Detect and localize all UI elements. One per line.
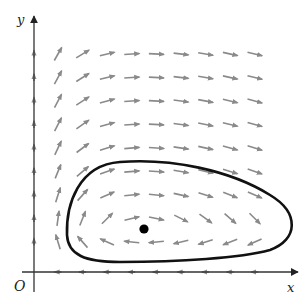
field-arrow	[174, 170, 189, 173]
field-arrow	[54, 48, 61, 61]
field-arrow	[56, 188, 61, 202]
field-arrow	[223, 52, 238, 55]
phase-plane-figure: y x O	[0, 0, 304, 304]
field-arrow	[223, 192, 237, 197]
direction-field	[54, 48, 262, 250]
field-arrow	[248, 146, 262, 150]
field-arrow	[199, 193, 213, 198]
field-arrow	[223, 169, 237, 173]
phase-plane-plot	[0, 0, 304, 304]
field-arrow	[149, 171, 164, 172]
field-arrow	[199, 240, 213, 245]
field-arrow	[124, 124, 139, 125]
field-arrow	[57, 211, 59, 226]
field-arrow	[174, 240, 189, 243]
field-arrow	[248, 76, 263, 80]
field-arrow	[174, 77, 189, 79]
field-arrow	[78, 189, 88, 200]
field-arrow	[149, 217, 164, 220]
x-axis-label: x	[287, 280, 294, 295]
field-arrow	[198, 146, 213, 149]
field-arrow	[174, 147, 189, 149]
field-arrow	[56, 235, 60, 249]
field-arrow	[223, 146, 238, 150]
equilibrium-point	[139, 224, 148, 233]
field-arrow	[149, 54, 164, 55]
field-arrow	[77, 144, 89, 153]
field-arrow	[174, 193, 189, 196]
field-arrow	[76, 74, 89, 82]
field-arrow	[76, 120, 88, 129]
field-arrow	[55, 118, 62, 131]
field-arrow	[124, 194, 139, 196]
field-arrow	[149, 241, 164, 242]
field-arrow	[80, 212, 86, 226]
field-arrow	[55, 94, 62, 107]
field-arrow	[248, 123, 262, 127]
field-arrow	[124, 171, 139, 172]
field-arrow	[100, 52, 115, 56]
closed-trajectory	[67, 161, 292, 262]
field-arrow	[149, 77, 164, 78]
field-arrow	[100, 146, 114, 150]
field-arrow	[124, 77, 139, 78]
field-arrow	[76, 97, 89, 105]
field-arrow	[149, 148, 164, 149]
field-arrow	[78, 236, 88, 247]
field-arrow	[248, 99, 263, 103]
field-arrow	[223, 76, 238, 79]
field-arrow	[100, 76, 115, 80]
field-arrow	[248, 239, 262, 245]
field-arrow	[248, 52, 263, 56]
field-arrow	[225, 214, 236, 224]
field-arrow	[124, 101, 139, 102]
field-arrow	[102, 213, 113, 224]
origin-label: O	[14, 278, 25, 294]
field-arrow	[55, 141, 61, 155]
field-arrow	[100, 169, 114, 174]
y-axis-label: y	[17, 12, 24, 27]
field-arrow	[54, 71, 61, 84]
field-arrow	[198, 100, 213, 103]
field-arrow	[100, 239, 114, 245]
field-arrow	[124, 241, 139, 243]
field-arrow	[174, 53, 189, 55]
field-arrow	[100, 192, 114, 198]
field-arrow	[223, 123, 238, 127]
field-arrow	[198, 76, 213, 79]
field-arrow	[125, 217, 140, 221]
field-arrow	[223, 99, 238, 102]
field-arrow	[200, 214, 212, 223]
field-arrow	[198, 123, 213, 126]
field-arrow	[149, 194, 164, 195]
field-arrow	[174, 124, 189, 126]
field-arrow	[250, 213, 261, 224]
field-arrow	[174, 215, 187, 222]
field-arrow	[124, 147, 139, 148]
field-arrow	[55, 165, 61, 179]
field-arrow	[149, 124, 164, 125]
field-arrow	[100, 99, 115, 103]
field-arrow	[76, 50, 89, 58]
field-arrow	[248, 169, 262, 174]
field-arrow	[100, 123, 114, 127]
field-arrow	[248, 192, 262, 198]
field-arrow	[149, 101, 164, 102]
field-arrow	[223, 239, 237, 245]
field-arrow	[174, 100, 189, 102]
field-arrow	[198, 53, 213, 56]
field-arrow	[124, 54, 139, 55]
